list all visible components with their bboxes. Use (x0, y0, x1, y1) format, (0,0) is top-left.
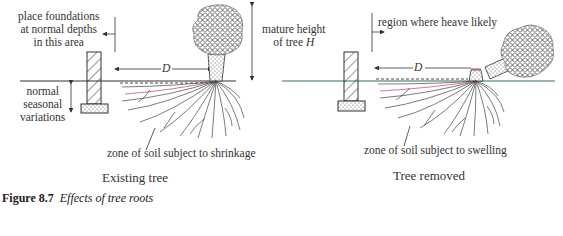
swelling-zone-label: zone of soil subject to swelling (364, 144, 507, 157)
left-subtitle: Existing tree (102, 170, 168, 186)
mature-height-label: mature height of tree H (262, 23, 326, 49)
foundation-footing (81, 104, 108, 113)
figure-caption: Figure 8.7 Effects of tree roots (2, 191, 153, 206)
heave-region-label: region where heave likely (378, 16, 497, 29)
felled-tree-crown (501, 25, 554, 77)
foundation-wall (87, 52, 101, 104)
distance-label-left: D (162, 62, 170, 75)
tree-stump (469, 70, 483, 81)
tree-roots (122, 81, 244, 138)
right-subtitle: Tree removed (393, 168, 465, 184)
foundation-footing-right (338, 101, 365, 111)
tree-trunk (208, 54, 225, 81)
tree-crown (193, 5, 243, 55)
distance-label-right: D (414, 61, 422, 74)
dead-tree-roots (378, 81, 504, 136)
figure-title: Effects of tree roots (60, 191, 153, 205)
seasonal-variations-label: normal seasonal variations (20, 85, 65, 124)
zone-pointer-right (404, 126, 410, 146)
shrinkage-zone-label: zone of soil subject to shrinkage (107, 147, 256, 160)
figure-number: Figure 8.7 (2, 191, 54, 205)
foundation-wall-right (344, 52, 358, 101)
foundation-area-label: place foundations at normal depths in th… (18, 10, 99, 49)
